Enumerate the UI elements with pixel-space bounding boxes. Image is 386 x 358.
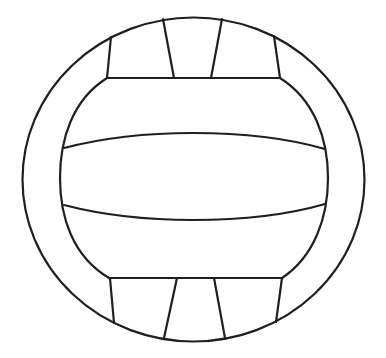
bottom-divider-4: [276, 278, 282, 322]
volleyball-outline: [23, 18, 365, 342]
upper-middle-seam: [64, 133, 325, 149]
right-inner-arc: [280, 78, 328, 278]
bottom-divider-2: [164, 278, 177, 338]
outer-circle: [23, 18, 365, 342]
top-divider-2: [163, 19, 174, 78]
volleyball-drawing: [0, 0, 386, 358]
bottom-divider-1: [110, 278, 114, 323]
bottom-divider-3: [214, 278, 225, 338]
top-divider-4: [274, 36, 280, 78]
lower-middle-seam: [64, 204, 325, 220]
top-divider-1: [107, 37, 111, 78]
left-inner-arc: [60, 78, 109, 278]
top-divider-3: [211, 19, 222, 78]
